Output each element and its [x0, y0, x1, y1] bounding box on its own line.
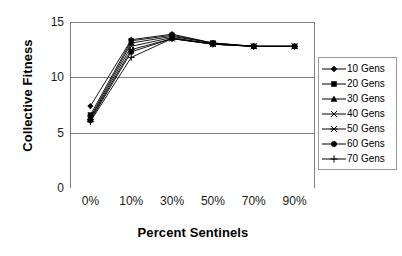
legend-marker-circle-icon — [321, 137, 347, 151]
legend-marker-asterisk-icon — [321, 122, 347, 136]
legend-label: 30 Gens — [347, 93, 385, 104]
legend-item-60-gens[interactable]: 60 Gens — [321, 136, 394, 151]
data-point-marker — [331, 81, 336, 86]
data-point-marker — [331, 141, 336, 146]
series-line — [90, 35, 294, 115]
legend-label: 10 Gens — [347, 63, 385, 74]
y-tick-label: 10 — [34, 71, 64, 83]
series-line — [90, 36, 294, 117]
series-line — [90, 39, 294, 120]
legend-label: 60 Gens — [347, 138, 385, 149]
data-point-marker — [330, 155, 337, 162]
legend-label: 40 Gens — [347, 108, 385, 119]
x-tick-label: 70% — [232, 194, 276, 208]
y-tick-label: 0 — [34, 182, 64, 194]
x-tick-label: 0% — [68, 194, 112, 208]
plot-svg — [70, 22, 315, 188]
legend-item-50-gens[interactable]: 50 Gens — [321, 121, 394, 136]
data-point-marker — [330, 126, 337, 132]
chart-legend: 10 Gens20 Gens30 Gens40 Gens50 Gens60 Ge… — [318, 57, 397, 170]
data-point-marker — [129, 49, 134, 54]
chart-figure: Collective Fitness 051015 0%10%30%50%70%… — [0, 0, 402, 256]
y-tick-label: 15 — [34, 16, 64, 28]
series-50-gens — [87, 36, 298, 122]
legend-marker-plus-icon — [321, 152, 347, 166]
legend-item-40-gens[interactable]: 40 Gens — [321, 106, 394, 121]
data-point-marker — [88, 103, 94, 109]
plot-area — [70, 22, 315, 188]
y-tick-label: 5 — [34, 127, 64, 139]
series-60-gens — [88, 36, 297, 123]
x-tick-label: 10% — [109, 194, 153, 208]
series-line — [90, 39, 294, 121]
legend-marker-square-icon — [321, 77, 347, 91]
legend-label: 20 Gens — [347, 78, 385, 89]
legend-item-30-gens[interactable]: 30 Gens — [321, 91, 394, 106]
legend-marker-x-icon — [321, 107, 347, 121]
legend-item-10-gens[interactable]: 10 Gens — [321, 61, 394, 76]
legend-item-70-gens[interactable]: 70 Gens — [321, 151, 394, 166]
legend-marker-diamond-icon — [321, 62, 347, 76]
series-line — [90, 34, 294, 106]
data-point-marker — [331, 66, 337, 72]
x-tick-label: 50% — [191, 194, 235, 208]
series-20-gens — [88, 33, 297, 117]
legend-label: 50 Gens — [347, 123, 385, 134]
legend-item-20-gens[interactable]: 20 Gens — [321, 76, 394, 91]
legend-marker-triangle-icon — [321, 92, 347, 106]
y-axis-tick-labels: 051015 — [32, 22, 64, 188]
legend-label: 70 Gens — [347, 153, 385, 164]
series-line — [90, 39, 294, 122]
x-axis-title: Percent Sentinels — [70, 225, 316, 240]
x-axis-tick-labels: 0%10%30%50%70%90% — [70, 194, 315, 210]
series-70-gens — [87, 35, 298, 125]
x-tick-label: 90% — [273, 194, 317, 208]
x-tick-label: 30% — [150, 194, 194, 208]
